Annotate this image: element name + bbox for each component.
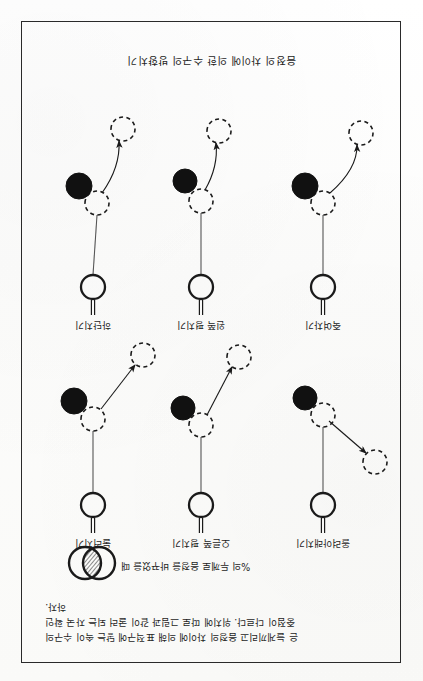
diagram-cell: 올려아래치기 (259, 336, 387, 551)
diagram-cell: 하단치기 (29, 118, 157, 333)
diagram-canvas (29, 118, 157, 319)
scanned-page: 은 늘게끼리고 음정의 차이에 의해 표적구에 닿는 속이 수구의 중점이 다르… (0, 0, 423, 681)
diagram-canvas (259, 118, 387, 319)
note-line-3: 하자. (45, 600, 377, 615)
diagram-cell: 죽여차기 (259, 118, 387, 333)
diagram-cell: 눌러치기 (29, 336, 157, 551)
legend-label: %의 두께로 음정을 바꾸었을 때 (121, 560, 250, 574)
diagram-label: 눌러치기 (29, 537, 157, 551)
note-line-2: 중점이 다르다. 위치에 따로 그림과 같이 굴러 되는 자국 확인 (45, 615, 377, 630)
note-line-1: 은 늘게끼리고 음정의 차이에 의해 표적구에 닿는 속이 수구의 (45, 630, 377, 645)
diagram-canvas (29, 336, 157, 537)
diagram-label: 죽여차기 (259, 319, 387, 333)
diagram-label: 하단치기 (29, 319, 157, 333)
figure-caption: 음정의 차이에 의한 수구의 방향치기 (0, 54, 423, 69)
note-block: 은 늘게끼리고 음정의 차이에 의해 표적구에 닿는 속이 수구의 중점이 다르… (45, 600, 377, 645)
rotated-page-content: 은 늘게끼리고 음정의 차이에 의해 표적구에 닿는 속이 수구의 중점이 다르… (0, 0, 423, 681)
diagram-canvas (259, 336, 387, 537)
diagram-label: 올려아래치기 (259, 537, 387, 551)
